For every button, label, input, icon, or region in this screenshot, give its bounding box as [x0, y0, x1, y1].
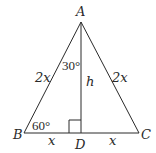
side-label-bd: x	[48, 133, 56, 148]
side-label-dc: x	[109, 133, 117, 148]
angle-label-30: 30°	[62, 58, 80, 73]
vertex-label-c: C	[141, 127, 151, 142]
altitude-label-h: h	[86, 74, 94, 89]
side-label-ab: 2x	[34, 70, 51, 85]
vertex-label-d: D	[74, 137, 86, 152]
side-ab	[24, 22, 81, 133]
angle-label-60: 60°	[32, 118, 50, 133]
vertex-label-a: A	[75, 4, 85, 19]
side-label-ac: 2x	[111, 70, 128, 85]
vertex-label-b: B	[12, 127, 23, 142]
right-angle-marker	[69, 120, 81, 133]
triangle-diagram: A B C D 2x 2x x x h 30° 60°	[0, 0, 156, 153]
